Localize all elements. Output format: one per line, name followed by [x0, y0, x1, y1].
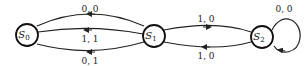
edge-label: 1, 1: [81, 34, 98, 44]
edge-label: 0, 0: [275, 4, 292, 14]
state-s1: S1: [143, 25, 165, 47]
edge-s1-s2: 1, 0: [164, 14, 251, 32]
edge-label: 1, 0: [197, 51, 214, 61]
edge-s1-s0-middle: 1, 1: [38, 28, 143, 44]
state-diagram: 0, 0 1, 1 0, 1 1, 0 1, 0 0, 0 S0 S1 S2: [0, 0, 307, 66]
edge-s1-s0-top: 0, 0: [37, 4, 144, 26]
state-s2: S2: [251, 26, 273, 48]
edge-s2-self-loop: 0, 0: [272, 4, 300, 52]
edge-s2-s1: 1, 0: [164, 42, 251, 61]
edge-label: 1, 0: [197, 14, 214, 24]
edge-s1-s0-bottom: 0, 1: [37, 42, 144, 66]
edge-label: 0, 1: [81, 56, 98, 66]
edge-label: 0, 0: [81, 4, 98, 14]
state-s0: S0: [16, 24, 38, 46]
